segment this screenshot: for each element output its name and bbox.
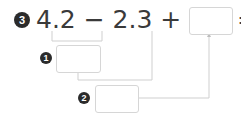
problem-number-badge: 3: [14, 12, 30, 28]
step-2-box[interactable]: [95, 85, 139, 113]
step-2-badge: 2: [78, 92, 90, 104]
step-1-box[interactable]: [56, 45, 101, 73]
answer-box[interactable]: [189, 7, 233, 35]
step-1-badge: 1: [40, 52, 52, 64]
